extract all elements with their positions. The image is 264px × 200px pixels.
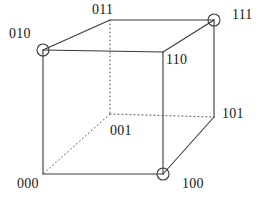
vertex-label-000: 000 <box>17 177 39 191</box>
vertex-label-110: 110 <box>166 53 187 67</box>
vertex-label-010: 010 <box>9 27 31 41</box>
cube-edge-010-110 <box>43 50 163 52</box>
cube-figure: 010011111110001101000100 <box>0 0 264 200</box>
vertex-marker-111 <box>208 14 220 26</box>
vertex-marker-100 <box>157 168 169 180</box>
cube-edge-010-011 <box>43 20 110 50</box>
vertex-label-111: 111 <box>232 8 253 22</box>
cube-edge-101-100 <box>163 117 214 174</box>
cube-edge-110-111 <box>163 20 214 52</box>
cube-edge-001-000 <box>43 114 110 174</box>
vertex-marker-010 <box>37 44 49 56</box>
cube-edge-001-101 <box>110 114 214 117</box>
cube-diagram-svg <box>0 0 264 200</box>
vertex-label-101: 101 <box>222 107 244 121</box>
edges-layer <box>43 20 214 174</box>
vertex-label-001: 001 <box>110 124 132 138</box>
vertex-label-100: 100 <box>182 177 204 191</box>
vertex-label-011: 011 <box>92 3 113 17</box>
